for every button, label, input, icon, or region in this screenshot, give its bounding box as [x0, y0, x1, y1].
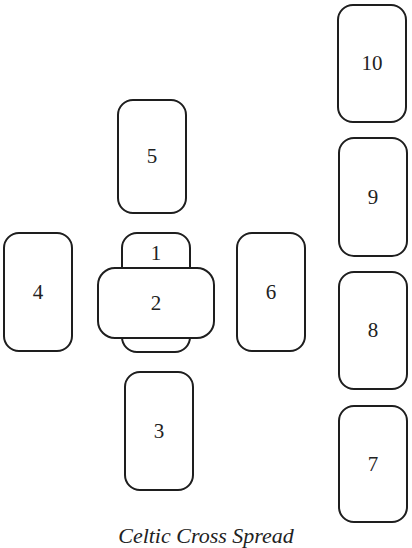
card-9-label: 9: [368, 187, 379, 208]
card-3-label: 3: [154, 421, 165, 442]
card-4-label: 4: [33, 282, 44, 303]
card-10: 10: [337, 4, 407, 123]
card-1-label: 1: [123, 243, 189, 264]
card-8: 8: [338, 271, 408, 390]
card-10-label: 10: [362, 53, 383, 74]
card-3: 3: [124, 371, 194, 491]
card-7-label: 7: [368, 454, 379, 475]
card-6: 6: [236, 232, 306, 352]
card-5: 5: [117, 99, 187, 214]
card-9: 9: [338, 137, 408, 257]
card-7: 7: [338, 405, 408, 523]
card-2: 2: [97, 267, 215, 339]
card-2-label: 2: [151, 293, 162, 314]
card-5-label: 5: [147, 146, 158, 167]
diagram-caption: Celtic Cross Spread: [0, 523, 412, 548]
card-8-label: 8: [368, 320, 379, 341]
card-6-label: 6: [266, 282, 277, 303]
card-4: 4: [3, 232, 73, 352]
